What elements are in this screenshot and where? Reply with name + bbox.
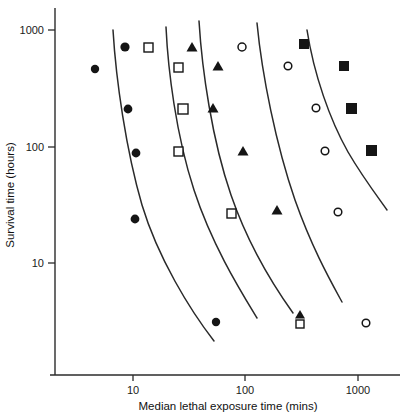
data-point <box>174 147 183 156</box>
data-point <box>238 146 249 156</box>
data-point <box>120 42 129 51</box>
data-point <box>212 318 220 326</box>
data-point <box>91 65 99 73</box>
data-point <box>296 320 304 328</box>
data-point <box>178 104 188 114</box>
series-filled-square <box>299 39 377 156</box>
data-point <box>295 310 305 319</box>
fit-curve-5 <box>307 30 387 210</box>
data-point <box>227 209 236 218</box>
series-filled-triangle <box>187 42 306 319</box>
scatter-chart-figure: 1000 100 10 10 100 1000 Median lethal ex… <box>0 0 402 414</box>
data-point <box>174 63 183 72</box>
y-tick-label-100: 100 <box>26 141 44 153</box>
data-point <box>339 61 349 71</box>
data-point <box>124 105 133 114</box>
data-point <box>187 42 198 52</box>
data-point <box>131 215 140 224</box>
y-tick-label-10: 10 <box>32 257 44 269</box>
data-point <box>272 205 283 215</box>
x-tick-label-1000: 1000 <box>346 384 370 396</box>
x-tick-label-10: 10 <box>127 384 139 396</box>
data-point <box>346 103 357 114</box>
x-axis-title: Median lethal exposure time (mins) <box>139 400 318 412</box>
series-open-circle <box>238 43 370 327</box>
data-point <box>334 208 342 216</box>
y-tick-label-1000: 1000 <box>20 24 44 36</box>
data-point <box>362 319 370 327</box>
series-filled-circle <box>91 42 220 326</box>
plot-canvas: 1000 100 10 10 100 1000 Median lethal ex… <box>0 0 402 414</box>
fit-curve-1 <box>113 30 214 341</box>
data-point <box>284 62 292 70</box>
series-open-square <box>144 43 304 328</box>
data-point <box>144 43 153 52</box>
fit-curve-3 <box>199 21 293 313</box>
x-tick-label-100: 100 <box>236 384 254 396</box>
fit-curve-4 <box>257 23 342 302</box>
data-point <box>213 61 224 71</box>
data-point <box>132 149 141 158</box>
data-point <box>366 145 377 156</box>
data-point <box>299 39 309 49</box>
data-point <box>312 104 320 112</box>
y-axis-title: Survival time (hours) <box>4 142 16 248</box>
data-point <box>238 43 246 51</box>
data-point <box>321 147 329 155</box>
x-axis-ticks: 10 100 1000 <box>127 375 370 396</box>
y-axis-ticks: 1000 100 10 <box>20 24 55 269</box>
